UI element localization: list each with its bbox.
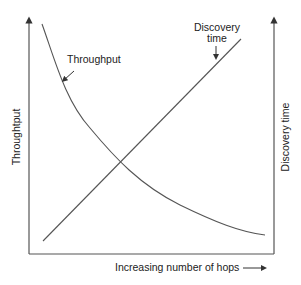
throughput-annotation: Throughput <box>67 53 121 65</box>
right-axis-label: Discovery time <box>279 102 291 171</box>
discovery-time-line <box>43 39 241 241</box>
x-axis-label: Increasing number of hops <box>115 261 239 273</box>
left-axis-label: Throughtput <box>10 109 22 166</box>
chart-canvas: Throughput Discovery time Throughtput Di… <box>0 0 301 285</box>
throughput-arrow-icon <box>64 71 74 80</box>
discovery-annotation-line2: time <box>207 32 227 44</box>
